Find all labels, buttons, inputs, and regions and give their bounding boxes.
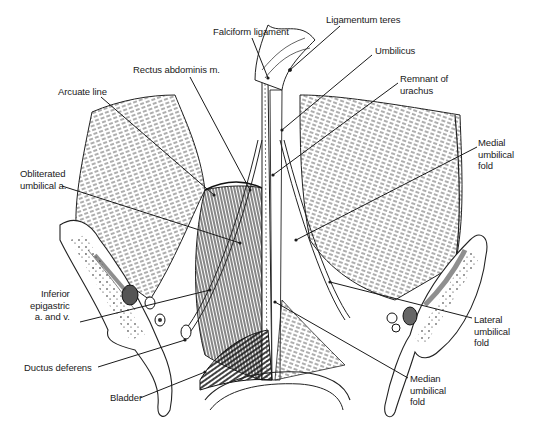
label-medial-umbilical-fold: Medial umbilical fold — [478, 137, 514, 172]
leader-dot-bladder — [203, 370, 206, 373]
label-obliterated-umbilical-artery: Obliterated umbilical a. — [20, 168, 66, 191]
leader-line-bladder — [140, 372, 205, 398]
label-ductus-deferens: Ductus deferens — [24, 362, 92, 374]
leader-dot-lateral-umbilical-fold — [328, 280, 331, 283]
label-remnant-of-urachus: Remnant of urachus — [400, 73, 448, 96]
label-bladder: Bladder — [110, 392, 142, 404]
leader-dot-median-umbilical-fold — [273, 300, 276, 303]
label-umbilicus: Umbilicus — [375, 45, 415, 57]
leader-dot-ductus-deferens — [183, 338, 186, 341]
leader-dot-obliterated-umbilical-artery — [238, 241, 241, 244]
label-falciform-ligament: Falciform ligament — [213, 26, 289, 38]
label-ligamentum-teres: Ligamentum teres — [326, 14, 400, 26]
leader-dot-ligamentum-teres — [288, 68, 291, 71]
leader-dot-umbilicus — [280, 128, 283, 131]
leader-dot-inferior-epigastric — [208, 288, 211, 291]
lower-median-wall — [275, 300, 345, 380]
label-rectus-abdominis: Rectus abdominis m. — [133, 64, 220, 76]
leader-dot-falciform-ligament — [266, 76, 269, 79]
label-arcuate-line: Arcuate line — [58, 86, 107, 98]
label-inferior-epigastric: Inferior epigastric a. and v. — [30, 288, 70, 323]
label-lateral-umbilical-fold: Lateral umbilical fold — [474, 314, 510, 349]
leader-dot-arcuate-line — [212, 193, 215, 196]
right-abdominal-wall — [300, 95, 462, 300]
leader-dot-medial-umbilical-fold — [294, 238, 297, 241]
leader-dot-remnant-of-urachus — [271, 173, 274, 176]
ductus-deferens-shape — [181, 325, 191, 339]
label-median-umbilical-fold: Median umbilical fold — [410, 373, 446, 408]
leader-dot-rectus-abdominis — [248, 188, 251, 191]
anatomy-figure: Falciform ligamentLigamentum teresUmbili… — [0, 0, 534, 430]
